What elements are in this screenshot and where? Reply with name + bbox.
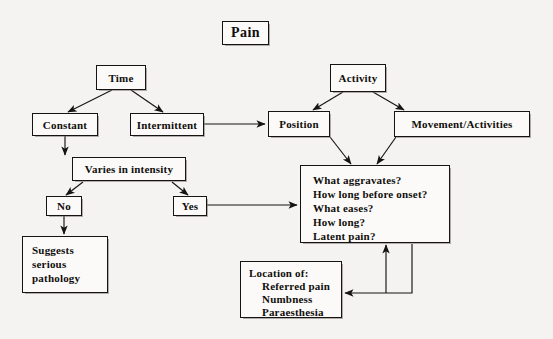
edge-time-intermittent (131, 90, 163, 112)
node-questions: What aggravates? How long before onset? … (300, 165, 450, 243)
node-varies-label: Varies in intensity (85, 163, 173, 175)
node-constant-label: Constant (43, 119, 87, 131)
node-no: No (46, 196, 82, 216)
question-line-2: How long before onset? (313, 187, 449, 201)
node-pain: Pain (222, 21, 269, 45)
edge-activity-position (313, 92, 343, 110)
node-suggests-line-3: pathology (32, 271, 107, 285)
edge-varies-yes (172, 182, 188, 195)
node-activity-label: Activity (339, 72, 378, 84)
node-constant: Constant (32, 113, 98, 136)
node-intermittent-label: Intermittent (137, 119, 197, 131)
node-movement-label: Movement/Activities (412, 118, 513, 130)
node-no-label: No (57, 200, 71, 212)
question-line-3: What eases? (313, 201, 449, 215)
edge-activity-movement (373, 92, 404, 110)
node-time: Time (96, 65, 146, 90)
node-activity: Activity (330, 64, 386, 92)
node-movement-activities: Movement/Activities (394, 111, 530, 137)
node-suggests-line-1: Suggests (32, 243, 107, 257)
node-time-label: Time (108, 72, 133, 84)
node-suggests-serious-pathology: Suggests serious pathology (22, 236, 108, 293)
node-questions-lines: What aggravates? How long before onset? … (313, 173, 449, 243)
flowchart-canvas: Pain Time Constant Intermittent Varies i… (0, 0, 553, 339)
node-yes: Yes (173, 196, 207, 216)
edge-varies-no (66, 182, 83, 195)
edge-time-constant (68, 90, 112, 112)
edge-questions-location (345, 244, 412, 293)
edge-position-questions (330, 137, 351, 164)
question-line-1: What aggravates? (313, 173, 449, 187)
node-position-label: Position (279, 118, 319, 130)
location-heading: Location of: (249, 267, 341, 280)
question-line-5: Latent pain? (313, 229, 449, 243)
location-item-3: Paraesthesia (249, 306, 341, 319)
node-suggests-line-2: serious (32, 257, 107, 271)
node-position: Position (268, 111, 330, 137)
node-location: Location of: Referred pain Numbness Para… (240, 261, 342, 318)
node-pain-label: Pain (231, 25, 260, 41)
node-yes-label: Yes (182, 200, 199, 212)
node-suggests-lines: Suggests serious pathology (32, 243, 107, 285)
node-location-lines: Location of: Referred pain Numbness Para… (249, 267, 341, 319)
node-intermittent: Intermittent (130, 113, 204, 136)
node-varies-in-intensity: Varies in intensity (72, 157, 186, 181)
location-item-2: Numbness (249, 293, 341, 306)
edge-movement-questions (377, 137, 396, 164)
location-item-1: Referred pain (249, 280, 341, 293)
question-line-4: How long? (313, 215, 449, 229)
